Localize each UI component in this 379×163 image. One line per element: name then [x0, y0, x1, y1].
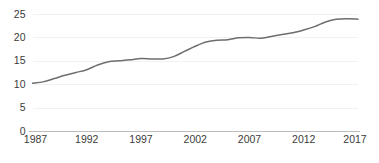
y-tick-label: 20: [14, 31, 26, 43]
data-series-line: [33, 19, 359, 84]
series-line: [33, 19, 359, 84]
line-chart: 0510152025 1987199219972002200720122017: [0, 0, 379, 163]
x-tick-label: 2007: [238, 133, 262, 145]
y-axis-tick-labels: 0510152025: [14, 8, 26, 137]
x-tick-label: 2012: [292, 133, 316, 145]
x-tick-label: 1992: [75, 133, 99, 145]
x-tick-label: 1997: [129, 133, 153, 145]
chart-canvas: 0510152025 1987199219972002200720122017: [0, 0, 379, 163]
y-tick-label: 25: [14, 8, 26, 20]
x-tick-label: 2017: [343, 133, 367, 145]
y-tick-label: 10: [14, 78, 26, 90]
y-tick-label: 5: [20, 101, 26, 113]
x-tick-label: 2002: [184, 133, 208, 145]
x-tick-label: 1987: [24, 133, 48, 145]
x-axis-tick-labels: 1987199219972002200720122017: [24, 133, 367, 145]
y-tick-label: 15: [14, 54, 26, 66]
